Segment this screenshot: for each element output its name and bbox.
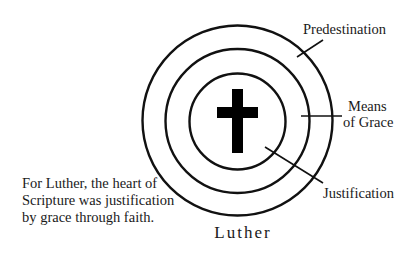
cross-icon — [217, 89, 258, 153]
predestination-label: Predestination — [303, 21, 387, 37]
caption-line-1: For Luther, the heart of — [22, 175, 192, 192]
caption-line-2: Scripture was justification — [22, 192, 192, 209]
caption-line-3: by grace through faith. — [22, 209, 192, 226]
justification-label: Justification — [323, 185, 395, 201]
means-label-line2: of Grace — [343, 114, 393, 130]
means-label-line1: Means — [348, 98, 387, 114]
diagram-title: Luther — [214, 223, 271, 242]
caption: For Luther, the heart of Scripture was j… — [22, 175, 192, 226]
justification-leader-line — [265, 147, 323, 183]
